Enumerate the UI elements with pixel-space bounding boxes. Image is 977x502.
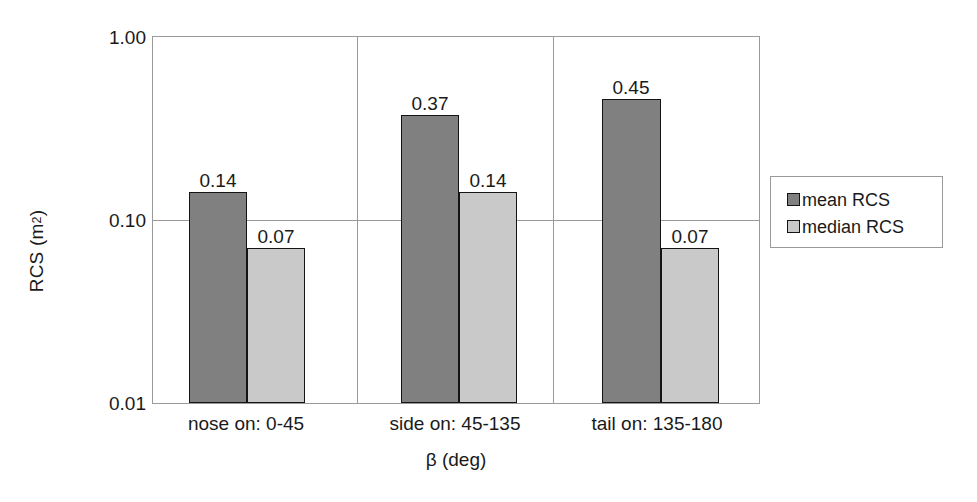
y-tick-label-3: 0.01: [62, 394, 146, 413]
data-label-median-side-on: 0.14: [470, 171, 507, 190]
y-axis-tick-labels: 1.00 0.10 0.01: [58, 0, 146, 502]
y-tick-label-1: 1.00: [62, 28, 146, 47]
plot-area: 0.14 0.07 0.37 0.14 0.45 0.07: [152, 36, 760, 404]
x-category-label-nose-on: nose on: 0-45: [188, 414, 304, 433]
y-axis-title: RCS (m2): [14, 0, 60, 502]
legend-label-median-rcs: median RCS: [802, 218, 904, 236]
chart-legend: mean RCS median RCS: [770, 176, 943, 248]
category-separator-1: [357, 37, 358, 403]
y-axis-title-close-paren: ): [26, 210, 48, 217]
data-label-median-nose-on: 0.07: [258, 227, 295, 246]
data-label-mean-nose-on: 0.14: [200, 171, 237, 190]
data-label-mean-side-on: 0.37: [412, 94, 449, 113]
legend-swatch-median-icon: [787, 220, 800, 233]
rcs-bar-chart-figure: RCS (m2) 1.00 0.10 0.01 0.14 0.07 0.37 0…: [0, 0, 977, 502]
x-axis-title: β (deg): [152, 450, 760, 469]
bar-mean-side-on[interactable]: [401, 115, 459, 403]
bar-mean-nose-on[interactable]: [189, 192, 247, 403]
category-separator-2: [553, 37, 554, 403]
y-tick-label-2: 0.10: [62, 211, 146, 230]
x-category-label-tail-on: tail on: 135-180: [592, 414, 723, 433]
bar-median-nose-on[interactable]: [247, 248, 305, 403]
bar-median-tail-on[interactable]: [661, 248, 719, 403]
x-category-label-side-on: side on: 45-135: [390, 414, 521, 433]
legend-item-mean-rcs[interactable]: mean RCS: [787, 186, 942, 213]
y-axis-title-text: RCS (m: [26, 223, 48, 292]
bar-mean-tail-on[interactable]: [602, 99, 661, 403]
legend-swatch-mean-icon: [787, 193, 800, 206]
bar-median-side-on[interactable]: [459, 192, 517, 403]
data-label-mean-tail-on: 0.45: [613, 78, 650, 97]
data-label-median-tail-on: 0.07: [672, 227, 709, 246]
legend-label-mean-rcs: mean RCS: [802, 191, 890, 209]
legend-item-median-rcs[interactable]: median RCS: [787, 213, 942, 240]
